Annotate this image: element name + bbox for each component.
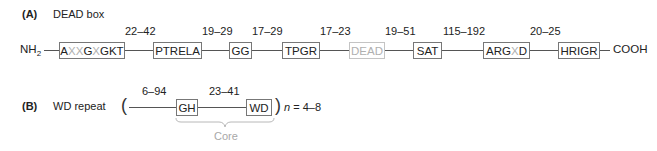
backbone-line-a-end [600, 50, 610, 51]
n-terminus-subscript: 2 [37, 49, 41, 58]
panel-a-title: DEAD box [53, 8, 104, 20]
panel-a-label: (A) [22, 8, 37, 20]
core-brace-icon [175, 117, 275, 129]
motif-part: GKT [100, 45, 124, 57]
panel-b-title: WD repeat [53, 100, 106, 112]
motif-part: ARG [486, 45, 511, 57]
motif-gh: GH [176, 99, 198, 116]
motif-gg: GG [229, 42, 252, 59]
motif-wd: WD [246, 99, 272, 116]
panel-b-label: (B) [22, 100, 37, 112]
open-paren: ( [121, 95, 127, 116]
spacer-label: 20–25 [530, 25, 561, 37]
motif-sat: SAT [413, 42, 442, 59]
motif-axxgxgkt: AXXGXGKT [59, 42, 125, 59]
spacer-label: 19–51 [385, 25, 416, 37]
motif-dead: DEAD [349, 42, 385, 59]
motif-part: A [60, 45, 68, 57]
core-label: Core [214, 130, 238, 142]
spacer-label: 115–192 [443, 25, 485, 37]
motif-tpgr: TPGR [282, 42, 320, 59]
motif-part-variable: XX [68, 45, 83, 57]
motif-part-variable: X [511, 45, 519, 57]
motif-ptrela: PTRELA [153, 42, 202, 59]
motif-argxd: ARGXD [483, 42, 530, 59]
spacer-label: 19–29 [202, 25, 233, 37]
motif-part: G [83, 45, 92, 57]
spacer-label: 17–29 [252, 25, 283, 37]
close-paren: ) [275, 95, 281, 116]
n-terminus: NH2 [20, 43, 41, 58]
repeat-count: n = 4–8 [284, 101, 321, 113]
spacer-label: 23–41 [209, 85, 240, 97]
spacer-label: 22–42 [125, 25, 156, 37]
spacer-label: 17–23 [320, 25, 351, 37]
c-terminus: COOH [613, 43, 648, 55]
repeat-range: = 4–8 [290, 101, 321, 113]
motif-hrigr: HRIGR [558, 42, 600, 59]
spacer-label: 6–94 [142, 85, 166, 97]
motif-part-variable: X [92, 45, 100, 57]
n-terminus-text: NH [20, 43, 37, 55]
motif-part: D [519, 45, 527, 57]
